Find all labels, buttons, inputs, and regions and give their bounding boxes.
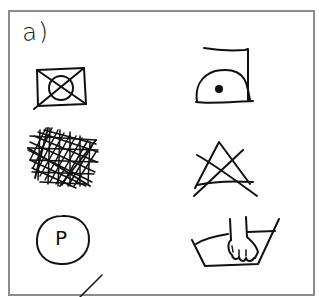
symbols-canvas: [0, 0, 319, 297]
heat-dot-icon: [215, 85, 223, 93]
stray-pen-stroke: [80, 275, 102, 297]
iron-low-heat-icon: [196, 48, 253, 103]
dry-clean-letter: P: [55, 226, 67, 250]
bleach-prohibited-icon: [194, 142, 257, 196]
tumble-dry-prohibited-icon: [34, 68, 86, 109]
scribbled-out-icon: [28, 128, 98, 188]
hand-wash-icon: [192, 217, 279, 266]
